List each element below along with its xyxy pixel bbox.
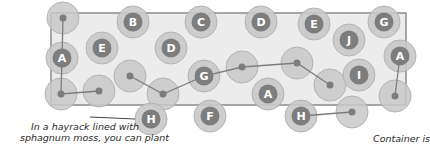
- plant-label: G: [379, 16, 388, 29]
- left-caption-line-1: In a hayrack lined with: [20, 121, 150, 132]
- dot-center: [58, 91, 65, 98]
- plant-label: J: [346, 34, 351, 47]
- right-caption: Container is: [373, 133, 430, 144]
- plant-label: D: [166, 42, 175, 55]
- plant-label: B: [129, 16, 137, 29]
- plant-label: A: [396, 50, 405, 63]
- dot-center: [392, 93, 399, 100]
- annotation-pointer-arrow: [90, 117, 135, 119]
- dot-center: [349, 109, 356, 116]
- plant-label: A: [58, 52, 67, 65]
- dot-center: [239, 64, 246, 71]
- dot-center: [160, 91, 167, 98]
- plant-label: D: [256, 16, 265, 29]
- plant-label: I: [357, 69, 361, 82]
- dot-center: [96, 88, 103, 95]
- plant-label: A: [264, 88, 273, 101]
- plant-label: E: [98, 42, 106, 55]
- plant-label: E: [310, 18, 318, 31]
- plant-label: F: [206, 110, 214, 123]
- dot-center: [327, 82, 334, 89]
- plant-label: C: [197, 16, 205, 29]
- plant-label: G: [199, 70, 208, 83]
- left-caption-line-2: sphagnum moss, you can plant: [20, 132, 150, 143]
- dot-center: [294, 60, 301, 67]
- dot-center: [127, 73, 134, 80]
- dot-center: [60, 15, 67, 22]
- left-caption: In a hayrack lined with sphagnum moss, y…: [20, 121, 150, 143]
- plant-label: H: [296, 110, 305, 123]
